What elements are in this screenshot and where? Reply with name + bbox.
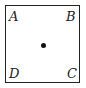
vertex-label-c: C — [67, 67, 77, 80]
vertex-label-a: A — [9, 10, 18, 23]
vertex-label-b: B — [66, 10, 76, 23]
vertex-label-d: D — [9, 67, 19, 80]
center-dot — [41, 43, 46, 48]
